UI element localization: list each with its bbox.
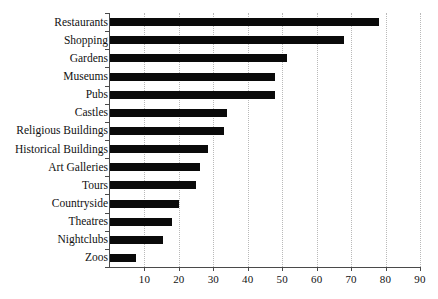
- y-axis-tick-mark: [105, 31, 110, 32]
- x-axis-tick-mark: [213, 267, 214, 271]
- y-axis-tick-mark: [105, 231, 110, 232]
- x-axis-line: [110, 267, 421, 268]
- bar: [110, 127, 224, 135]
- bar: [110, 254, 136, 262]
- category-label: Gardens: [4, 52, 108, 65]
- category-label: Religious Buildings: [4, 124, 108, 137]
- x-axis-tick-mark: [248, 267, 249, 271]
- bar-chart-figure: RestaurantsShoppingGardensMuseumsPubsCas…: [0, 0, 438, 299]
- category-label: Tours: [4, 179, 108, 192]
- x-gridline: [213, 13, 215, 267]
- y-axis-tick-mark: [105, 67, 110, 68]
- bar: [110, 91, 275, 99]
- y-axis-tick-mark: [105, 158, 110, 159]
- category-label: Zoos: [4, 251, 108, 264]
- y-axis-tick-mark: [105, 194, 110, 195]
- x-axis-tick-label: 90: [400, 273, 438, 286]
- y-axis-tick-mark: [105, 49, 110, 50]
- y-axis-tick-mark: [105, 140, 110, 141]
- bar: [110, 218, 172, 226]
- x-gridline: [420, 13, 422, 267]
- x-gridline: [282, 13, 284, 267]
- x-axis-tick-mark: [179, 267, 180, 271]
- x-gridline: [386, 13, 388, 267]
- y-axis-tick-mark: [105, 104, 110, 105]
- category-label: Shopping: [4, 34, 108, 47]
- x-axis-tick-mark: [144, 267, 145, 271]
- y-axis-tick-mark: [105, 176, 110, 177]
- y-axis-tick-mark: [105, 122, 110, 123]
- category-label: Theatres: [4, 215, 108, 228]
- category-label: Restaurants: [4, 16, 108, 29]
- x-gridline: [144, 13, 146, 267]
- bar: [110, 163, 200, 171]
- bar: [110, 73, 275, 81]
- plot-area: [110, 13, 420, 267]
- bar: [110, 109, 227, 117]
- x-axis-tick-mark: [282, 267, 283, 271]
- y-axis-tick-mark: [105, 249, 110, 250]
- bar: [110, 200, 179, 208]
- bar: [110, 54, 287, 62]
- bar: [110, 181, 196, 189]
- x-axis-tick-mark: [317, 267, 318, 271]
- bar: [110, 36, 344, 44]
- category-label: Nightclubs: [4, 233, 108, 246]
- x-gridline: [351, 13, 353, 267]
- category-label: Castles: [4, 106, 108, 119]
- category-label: Countryside: [4, 197, 108, 210]
- x-axis-tick-mark: [386, 267, 387, 271]
- y-axis-tick-mark: [105, 267, 110, 268]
- x-axis-tick-mark: [351, 267, 352, 271]
- x-gridline: [179, 13, 181, 267]
- category-label: Art Galleries: [4, 161, 108, 174]
- category-label: Museums: [4, 70, 108, 83]
- bar: [110, 145, 208, 153]
- category-label: Historical Buildings: [4, 143, 108, 156]
- category-axis-labels: RestaurantsShoppingGardensMuseumsPubsCas…: [0, 0, 108, 299]
- x-gridline: [317, 13, 319, 267]
- y-axis-tick-mark: [105, 213, 110, 214]
- y-axis-tick-mark: [105, 86, 110, 87]
- bar: [110, 236, 163, 244]
- x-gridline: [248, 13, 250, 267]
- y-axis-tick-mark: [105, 13, 110, 14]
- x-axis-tick-mark: [420, 267, 421, 271]
- category-label: Pubs: [4, 88, 108, 101]
- bar: [110, 18, 379, 26]
